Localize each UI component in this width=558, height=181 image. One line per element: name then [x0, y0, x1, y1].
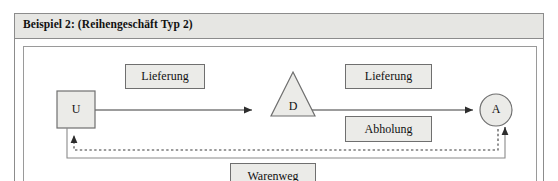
callout-abholung: Abholung	[345, 116, 432, 142]
flow-diagram	[24, 47, 538, 181]
edge-a-to-u-dashed	[74, 129, 498, 150]
node-d	[271, 72, 315, 116]
example-frame: Beispiel 2: (Reihengeschäft Typ 2)	[14, 13, 544, 181]
callout-lieferung-1: Lieferung	[125, 64, 205, 89]
callout-warenweg: Warenweg	[230, 163, 316, 181]
node-a	[480, 94, 512, 126]
callout-lieferung-2: Lieferung	[345, 64, 432, 89]
diagram-frame: U D A Lieferung Lieferung Abholung Waren…	[23, 46, 537, 181]
edge-a-to-u-solid	[67, 127, 505, 158]
screenshot-root: Beispiel 2: (Reihengeschäft Typ 2)	[0, 0, 558, 181]
node-u	[57, 91, 95, 128]
page-title: Beispiel 2: (Reihengeschäft Typ 2)	[23, 18, 193, 30]
